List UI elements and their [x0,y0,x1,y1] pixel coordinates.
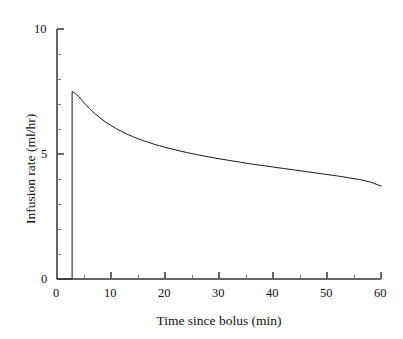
x-tick-label-30: 30 [212,287,225,300]
y-tick-label-0: 0 [41,273,47,286]
y-major-ticks [57,29,64,279]
y-tick-label-5: 5 [41,148,47,161]
axes-group [57,29,381,279]
chart-figure: 10 5 0 0 10 20 30 40 50 60 Time since bo… [0,0,403,339]
x-tick-label-40: 40 [266,287,279,300]
x-tick-label-10: 10 [104,287,117,300]
x-tick-label-60: 60 [374,287,387,300]
x-tick-label-50: 50 [320,287,333,300]
y-tick-label-10: 10 [34,23,47,36]
x-axis-title: Time since bolus (min) [57,314,381,328]
chart-plot-svg [0,0,403,339]
x-tick-label-20: 20 [158,287,171,300]
data-series-infusion-rate [57,92,381,280]
x-tick-label-0: 0 [53,287,59,300]
y-axis-title: Infusion rate (ml/hr) [24,114,38,224]
x-major-ticks [57,272,381,279]
